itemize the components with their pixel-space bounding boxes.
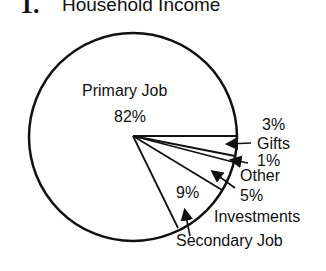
label-investments-name: Investments	[214, 208, 300, 225]
label-gifts-pct: 3%	[262, 116, 285, 133]
pie-chart: Primary Job 82% 3% Gifts 1% Other 5% Inv…	[0, 0, 326, 271]
label-secondary-pct: 9%	[176, 184, 199, 201]
gifts-arrow	[228, 143, 251, 144]
label-other-name: Other	[240, 167, 281, 184]
label-investments-pct: 5%	[240, 187, 263, 204]
label-primary-name: Primary Job	[82, 82, 167, 99]
label-gifts-name: Gifts	[257, 135, 290, 152]
label-secondary-name: Secondary Job	[176, 232, 283, 249]
label-primary-pct: 82%	[114, 108, 146, 125]
